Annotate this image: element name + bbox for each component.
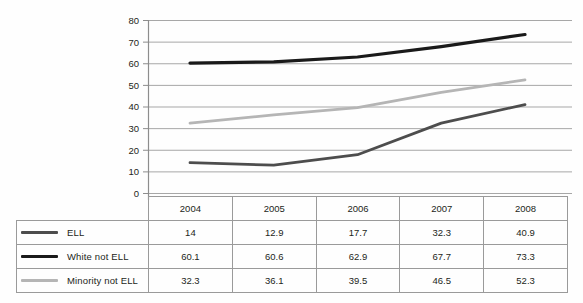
- table-cell-value: 52.3: [484, 269, 568, 293]
- y-axis-tick-label: 80: [128, 15, 139, 26]
- table-cell-value: 46.5: [400, 269, 484, 293]
- table-cell-value: 32.3: [400, 221, 484, 245]
- y-axis-tick-label: 20: [128, 145, 139, 156]
- series-line-ell: [190, 105, 525, 166]
- legend-entry: ELL: [17, 221, 149, 245]
- table-cell-value: 40.9: [484, 221, 568, 245]
- y-axis-tick-label: 70: [128, 37, 139, 48]
- table-cell-value: 67.7: [400, 245, 484, 269]
- table-header-year: 2005: [232, 197, 316, 221]
- line-chart-plot: 01020304050607080: [0, 0, 583, 200]
- table-cell-value: 32.3: [149, 269, 233, 293]
- table-row: ELL1412.917.732.340.9: [17, 221, 568, 245]
- table-cell-value: 73.3: [484, 245, 568, 269]
- legend-label: White not ELL: [67, 251, 129, 262]
- legend-swatch-icon: [21, 279, 58, 282]
- table-header-row: 20042005200620072008: [17, 197, 568, 221]
- table-cell-value: 60.1: [149, 245, 233, 269]
- y-axis-tick-label: 40: [128, 101, 139, 112]
- table-cell-value: 36.1: [232, 269, 316, 293]
- y-axis-tick-label: 50: [128, 80, 139, 91]
- table-cell-value: 12.9: [232, 221, 316, 245]
- table-cell-value: 62.9: [316, 245, 400, 269]
- y-axis-tick-label: 30: [128, 123, 139, 134]
- table-header-year: 2006: [316, 197, 400, 221]
- legend-swatch-icon: [21, 231, 58, 234]
- plot-svg: 01020304050607080: [0, 0, 583, 200]
- y-axis-tick-label: 10: [128, 166, 139, 177]
- table-cell-value: 60.6: [232, 245, 316, 269]
- table-header-year: 2004: [149, 197, 233, 221]
- y-axis-tick-label: 60: [128, 58, 139, 69]
- table-row: White not ELL60.160.662.967.773.3: [17, 245, 568, 269]
- table-header-year: 2007: [400, 197, 484, 221]
- series-line-white-not-ell: [190, 34, 525, 63]
- table-cell-value: 39.5: [316, 269, 400, 293]
- table-header-blank: [17, 197, 149, 221]
- legend-entry: Minority not ELL: [17, 269, 149, 293]
- legend-label: Minority not ELL: [67, 275, 138, 286]
- table-header-year: 2008: [484, 197, 568, 221]
- legend-swatch-icon: [21, 255, 58, 258]
- table-row: Minority not ELL32.336.139.546.552.3: [17, 269, 568, 293]
- table-cell-value: 17.7: [316, 221, 400, 245]
- table-cell-value: 14: [149, 221, 233, 245]
- legend-entry: White not ELL: [17, 245, 149, 269]
- legend-label: ELL: [67, 227, 84, 238]
- chart-figure: 01020304050607080 20042005200620072008EL…: [0, 0, 583, 303]
- chart-data-table: 20042005200620072008ELL1412.917.732.340.…: [16, 196, 568, 293]
